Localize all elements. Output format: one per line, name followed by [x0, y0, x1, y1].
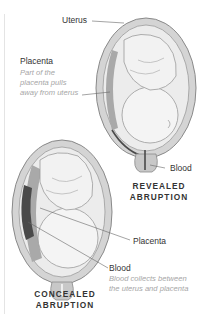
uterus-label: Uterus [62, 15, 87, 25]
placenta-top-label: Placenta [20, 56, 53, 66]
placenta-top-desc-3: away from uterus [20, 88, 78, 98]
blood-bottom-label: Blood [109, 263, 131, 273]
placenta-bottom-label: Placenta [133, 236, 166, 246]
revealed-title-line-1: REVEALED [124, 181, 194, 192]
concealed-abruption-title: CONCEALED ABRUPTION [30, 289, 100, 310]
placenta-top-desc-2: placenta pulls [20, 78, 66, 88]
placenta-top-desc-1: Part of the [20, 68, 55, 78]
concealed-uterus-illustration [12, 140, 112, 300]
blood-top-label: Blood [170, 163, 192, 173]
blood-bottom-desc-2: the uterus and placenta [109, 284, 188, 294]
revealed-title-line-2: ABRUPTION [124, 192, 194, 203]
revealed-abruption-title: REVEALED ABRUPTION [124, 181, 194, 202]
concealed-title-line-2: ABRUPTION [30, 300, 100, 311]
revealed-uterus-illustration [96, 18, 196, 172]
blood-bottom-desc-1: Blood collects between [109, 274, 187, 284]
abruption-illustration [0, 0, 203, 318]
concealed-title-line-1: CONCEALED [30, 289, 100, 300]
